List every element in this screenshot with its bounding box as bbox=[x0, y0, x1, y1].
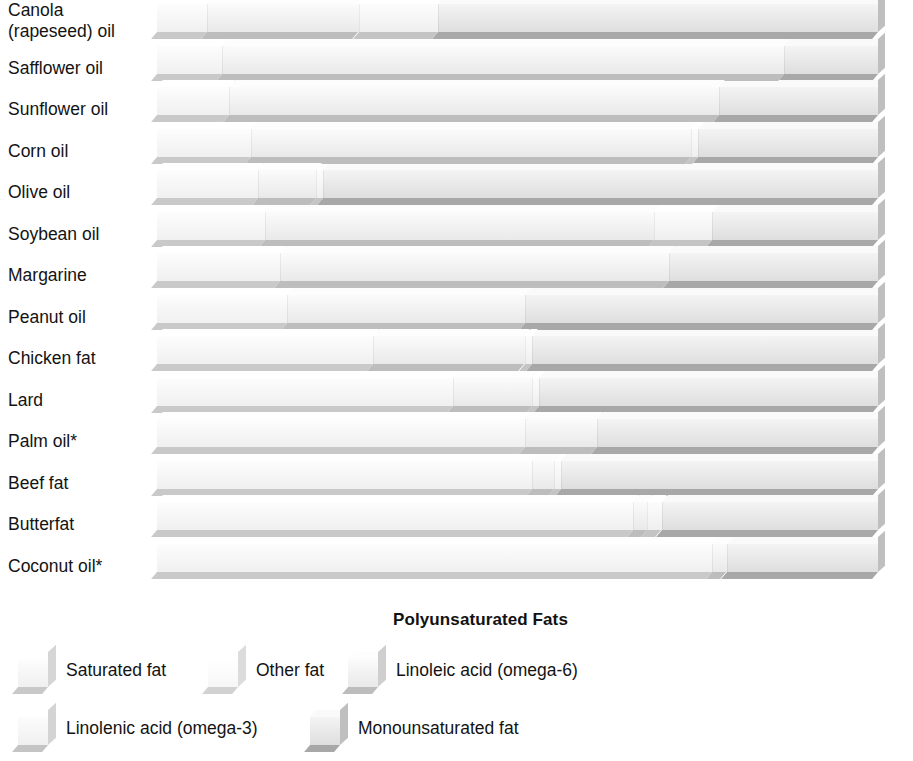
chart-row: Lard bbox=[0, 374, 913, 416]
stacked-bar bbox=[157, 129, 878, 157]
chart-row: Butterfat bbox=[0, 498, 913, 540]
stacked-bar bbox=[157, 336, 878, 364]
bar-segment-saturated bbox=[157, 336, 373, 364]
bar-segment-linoleic bbox=[712, 544, 726, 572]
legend-label-linoleic: Linoleic acid (omega-6) bbox=[396, 660, 578, 681]
bar-segment-linolenic bbox=[554, 461, 561, 489]
row-label-line2: (rapeseed) oil bbox=[8, 21, 148, 42]
legend-item-linolenic[interactable]: Linolenic acid (omega-3) bbox=[18, 702, 258, 754]
bar-segment-monounsat bbox=[539, 378, 878, 406]
polyunsaturated-fats-header: Polyunsaturated Fats bbox=[0, 610, 913, 630]
chart-plot-area: Canola(rapeseed) oilSafflower oilSunflow… bbox=[0, 0, 913, 600]
stacked-bar bbox=[157, 544, 878, 572]
bar-segment-saturated bbox=[157, 295, 287, 323]
bar-segment-saturated bbox=[157, 170, 258, 198]
bar-segment-saturated bbox=[157, 87, 229, 115]
row-label-12: Beef fat bbox=[8, 473, 148, 493]
bar-segment-monounsat bbox=[532, 336, 878, 364]
bar-segment-monounsat bbox=[719, 87, 878, 115]
bar-segment-saturated bbox=[157, 212, 265, 240]
bar-segment-linolenic bbox=[647, 502, 661, 530]
stacked-bar bbox=[157, 4, 878, 32]
row-label-line1: Canola bbox=[8, 0, 148, 21]
bar-segment-saturated bbox=[157, 4, 207, 32]
stacked-bar bbox=[157, 170, 878, 198]
stacked-bar bbox=[157, 253, 878, 281]
stacked-bar bbox=[157, 461, 878, 489]
bar-segment-linolenic bbox=[525, 336, 532, 364]
bar-segment-monounsat bbox=[784, 46, 878, 74]
bar-segment-saturated bbox=[157, 419, 525, 447]
legend-label-linolenic: Linolenic acid (omega-3) bbox=[66, 718, 258, 739]
stacked-bar bbox=[157, 295, 878, 323]
bar-segment-saturated bbox=[157, 461, 532, 489]
row-label-13: Butterfat bbox=[8, 514, 148, 534]
bar-segment-linoleic bbox=[251, 129, 691, 157]
chart-row: Peanut oil bbox=[0, 291, 913, 333]
stacked-bar bbox=[157, 419, 878, 447]
chart-row: Olive oil bbox=[0, 166, 913, 208]
legend-label-other: Other fat bbox=[256, 660, 324, 681]
row-label-11: Palm oil* bbox=[8, 431, 148, 451]
bar-segment-monounsat bbox=[525, 295, 878, 323]
bar-segment-linoleic bbox=[453, 378, 532, 406]
row-label-14: Coconut oil* bbox=[8, 556, 148, 576]
bar-segment-saturated bbox=[157, 378, 453, 406]
bar-segment-saturated bbox=[157, 129, 251, 157]
bar-segment-saturated bbox=[157, 544, 712, 572]
legend-swatch-linolenic bbox=[18, 711, 56, 745]
chart-row: Beef fat bbox=[0, 457, 913, 499]
bar-segment-linolenic bbox=[654, 212, 712, 240]
row-label-1: Canola(rapeseed) oil bbox=[8, 0, 148, 42]
bar-segment-linoleic bbox=[525, 419, 597, 447]
legend-label-saturated: Saturated fat bbox=[66, 660, 166, 681]
bar-segment-linoleic bbox=[532, 461, 554, 489]
row-label-7: Margarine bbox=[8, 265, 148, 285]
legend-item-monounsat[interactable]: Monounsaturated fat bbox=[310, 702, 519, 754]
bar-segment-monounsat bbox=[698, 129, 878, 157]
bar-segment-linoleic bbox=[207, 4, 358, 32]
chart-row: Soybean oil bbox=[0, 208, 913, 250]
chart-row: Palm oil* bbox=[0, 415, 913, 457]
bar-segment-monounsat bbox=[727, 544, 878, 572]
stacked-bar bbox=[157, 212, 878, 240]
bar-segment-monounsat bbox=[561, 461, 878, 489]
bar-segment-monounsat bbox=[438, 4, 878, 32]
polyunsaturated-fats-label: Polyunsaturated Fats bbox=[393, 610, 568, 630]
bar-segment-linolenic bbox=[359, 4, 438, 32]
bar-segment-monounsat bbox=[597, 419, 878, 447]
bar-segment-linoleic bbox=[229, 87, 719, 115]
bar-segment-saturated bbox=[157, 46, 222, 74]
legend-item-saturated[interactable]: Saturated fat bbox=[18, 644, 166, 696]
bar-segment-linoleic bbox=[280, 253, 669, 281]
row-label-9: Chicken fat bbox=[8, 348, 148, 368]
bar-segment-linoleic bbox=[633, 502, 647, 530]
legend-item-linoleic[interactable]: Linoleic acid (omega-6) bbox=[348, 644, 578, 696]
chart-row: Safflower oil bbox=[0, 42, 913, 84]
bar-segment-linoleic bbox=[265, 212, 654, 240]
stacked-bar bbox=[157, 378, 878, 406]
bar-segment-saturated bbox=[157, 502, 633, 530]
row-label-8: Peanut oil bbox=[8, 307, 148, 327]
stacked-bar bbox=[157, 502, 878, 530]
row-label-3: Sunflower oil bbox=[8, 99, 148, 119]
chart-row: Coconut oil* bbox=[0, 540, 913, 582]
legend-swatch-saturated bbox=[18, 653, 56, 687]
row-label-4: Corn oil bbox=[8, 141, 148, 161]
legend-label-monounsat: Monounsaturated fat bbox=[358, 718, 519, 739]
bar-segment-monounsat bbox=[662, 502, 878, 530]
bar-segment-linoleic bbox=[373, 336, 524, 364]
row-label-2: Safflower oil bbox=[8, 58, 148, 78]
bar-segment-linolenic bbox=[691, 129, 698, 157]
bar-segment-saturated bbox=[157, 253, 280, 281]
stacked-bar bbox=[157, 46, 878, 74]
bar-segment-monounsat bbox=[712, 212, 878, 240]
bar-segment-monounsat bbox=[323, 170, 878, 198]
bar-segment-linoleic bbox=[258, 170, 316, 198]
legend-swatch-monounsat bbox=[310, 711, 348, 745]
row-label-5: Olive oil bbox=[8, 182, 148, 202]
bar-segment-linoleic bbox=[287, 295, 525, 323]
legend-item-other[interactable]: Other fat bbox=[208, 644, 324, 696]
chart-row: Chicken fat bbox=[0, 332, 913, 374]
bar-segment-linolenic bbox=[532, 378, 539, 406]
